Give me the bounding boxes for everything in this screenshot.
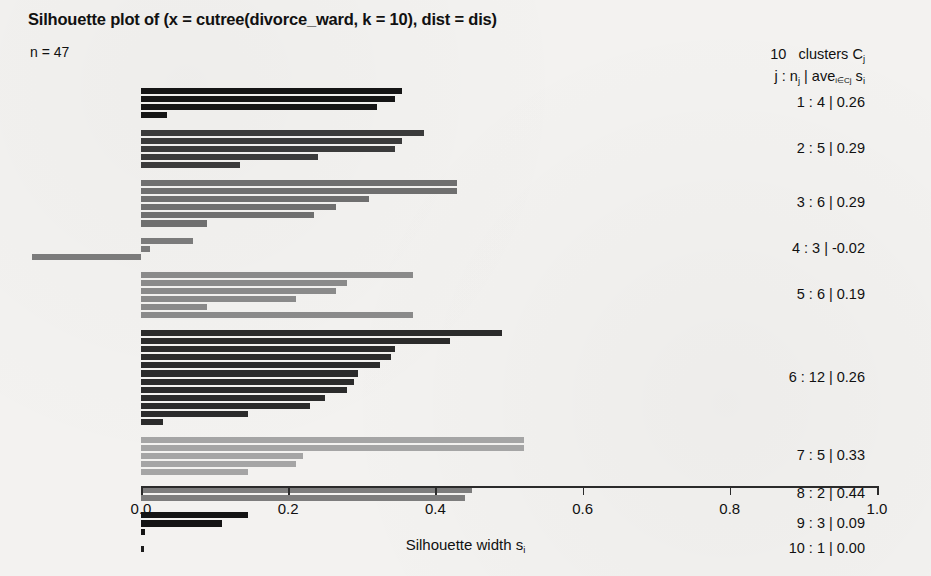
silhouette-bar (141, 445, 524, 451)
silhouette-bar (141, 395, 325, 401)
x-axis-label-sub: i (523, 544, 525, 555)
silhouette-bar (141, 104, 377, 110)
silhouette-bar (141, 411, 248, 417)
legend-col-s-sub: i (863, 75, 865, 86)
silhouette-bar (141, 387, 347, 393)
x-axis-tick-label: 1.0 (847, 500, 907, 517)
silhouette-bar (141, 362, 380, 368)
legend-row-6: 6 : 12 | 0.26 (789, 369, 865, 385)
x-axis-tick (141, 486, 143, 495)
x-axis-tick-label: 0.0 (111, 500, 171, 517)
legend-col-ave: | ave (800, 68, 835, 84)
legend-col-s: s (852, 68, 863, 84)
legend-row-4: 4 : 3 | -0.02 (792, 240, 865, 256)
silhouette-bar (141, 204, 336, 210)
silhouette-bar (141, 212, 314, 218)
legend-row-5: 5 : 6 | 0.19 (797, 286, 865, 302)
silhouette-bar (141, 461, 296, 467)
silhouette-bar (141, 487, 472, 493)
silhouette-bar (141, 338, 450, 344)
silhouette-bar (141, 88, 402, 94)
silhouette-bar (141, 330, 502, 336)
silhouette-bar (141, 370, 358, 376)
silhouette-bar (141, 296, 296, 302)
silhouette-bar (141, 238, 193, 244)
silhouette-bar (141, 188, 457, 194)
legend-cluster-count: 10 (770, 46, 786, 62)
silhouette-bar (141, 419, 163, 425)
legend-row-1: 1 : 4 | 0.26 (797, 94, 865, 110)
silhouette-bar (141, 379, 354, 385)
plot-area (0, 0, 931, 576)
silhouette-bar (141, 403, 310, 409)
silhouette-bar (141, 180, 457, 186)
x-axis-tick-label: 0.8 (700, 500, 760, 517)
x-axis-tick (583, 486, 585, 495)
silhouette-bar (141, 437, 524, 443)
legend-row-3: 3 : 6 | 0.29 (797, 194, 865, 210)
silhouette-bar (141, 469, 248, 475)
silhouette-bar (141, 112, 167, 118)
legend-cluster-sub: j (863, 53, 865, 64)
silhouette-bar (141, 520, 222, 526)
silhouette-bar (141, 312, 413, 318)
silhouette-bar (141, 246, 150, 252)
x-axis-label: Silhouette width si (0, 536, 931, 555)
silhouette-bar (141, 304, 207, 310)
x-axis-line (141, 486, 877, 488)
legend-row-2: 2 : 5 | 0.29 (797, 140, 865, 156)
silhouette-bar (141, 96, 395, 102)
x-axis-tick (877, 486, 879, 495)
silhouette-bar (141, 272, 413, 278)
legend-col-ave-sub: i∈Cj (835, 76, 851, 85)
silhouette-bar (141, 453, 303, 459)
silhouette-bar (141, 130, 424, 136)
silhouette-bar (141, 288, 336, 294)
x-axis-tick (435, 486, 437, 495)
silhouette-bar (141, 146, 395, 152)
silhouette-bar (141, 154, 318, 160)
silhouette-bar (141, 196, 369, 202)
legend-cluster-word: clusters C (798, 46, 862, 62)
legend-row-7: 7 : 5 | 0.33 (797, 447, 865, 463)
legend-header-clusters: 10 clusters Cj (770, 46, 865, 64)
x-axis-tick (288, 486, 290, 495)
legend-header-columns: j : nj | avei∈Cj si (775, 68, 865, 86)
x-axis-tick-label: 0.4 (405, 500, 465, 517)
silhouette-bar (141, 138, 402, 144)
silhouette-bar (141, 346, 395, 352)
silhouette-bar (141, 529, 145, 535)
silhouette-plot-page: Silhouette plot of (x = cutree(divorce_w… (0, 0, 931, 576)
x-axis-tick (730, 486, 732, 495)
silhouette-bar (141, 220, 207, 226)
silhouette-bar (141, 162, 240, 168)
x-axis-tick-label: 0.2 (258, 500, 318, 517)
x-axis-tick-label: 0.6 (553, 500, 613, 517)
x-axis-label-text: Silhouette width s (406, 536, 524, 553)
silhouette-bar (32, 254, 141, 260)
silhouette-bar (141, 354, 391, 360)
silhouette-bar (141, 280, 347, 286)
legend-col-j: j : n (775, 68, 798, 84)
